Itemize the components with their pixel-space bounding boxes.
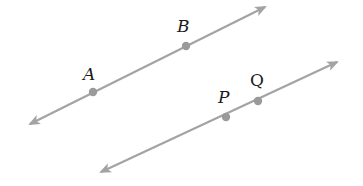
point-p [222,113,230,121]
point-b [182,42,190,50]
point-label-q: Q [250,70,264,90]
point-label-p: P [217,87,230,107]
line-pq [101,62,337,172]
diagram-canvas: A B P Q [0,0,363,186]
point-a [89,88,97,96]
point-label-a: A [81,64,95,84]
point-q [254,97,262,105]
point-label-b: B [176,16,190,36]
line-ab [30,7,265,124]
parallel-lines-diagram: A B P Q [0,0,363,186]
